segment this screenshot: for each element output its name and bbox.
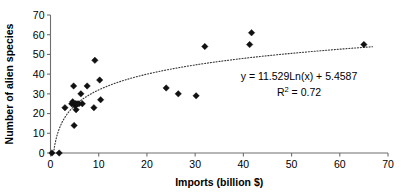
y-tick-label: 10 <box>33 127 45 139</box>
x-tick-label: 60 <box>334 158 346 170</box>
data-point-marker <box>70 83 77 90</box>
data-point-marker <box>96 77 103 84</box>
data-point-marker <box>193 93 200 100</box>
data-point-marker <box>56 150 63 157</box>
data-point-marker <box>49 150 56 157</box>
y-tick-label: 20 <box>33 107 45 119</box>
equation-annotation-group: y = 11.529Ln(x) + 5.4587R2 = 0.72 <box>241 70 358 98</box>
data-point-marker <box>71 122 78 128</box>
axis-lines <box>51 15 389 153</box>
y-tick-label: 30 <box>33 88 45 100</box>
y-tick-label: 70 <box>33 9 45 21</box>
x-tick-label: 50 <box>286 158 298 170</box>
data-point-marker <box>202 43 209 50</box>
data-point-marker <box>163 85 170 92</box>
x-tick-label: 0 <box>48 158 54 170</box>
chart-canvas: 010203040506070010203040506070 Imports (… <box>0 0 406 193</box>
y-tick-label: 50 <box>33 48 45 60</box>
scatter-plot-figure: 010203040506070010203040506070 Imports (… <box>0 0 406 193</box>
x-axis-title: Imports (billion $) <box>175 176 263 188</box>
data-point-marker <box>84 83 91 90</box>
data-point-marker <box>248 29 255 36</box>
r-squared-label: R2 = 0.72 <box>277 85 321 99</box>
data-point-marker <box>78 91 85 98</box>
y-tick-label: 40 <box>33 68 45 80</box>
r-squared-value: = 0.72 <box>289 86 322 98</box>
x-tick-label: 30 <box>189 158 201 170</box>
data-point-marker <box>92 57 99 64</box>
x-tick-label: 20 <box>141 158 153 170</box>
data-point-marker <box>62 104 69 111</box>
trendline-equation-label: y = 11.529Ln(x) + 5.4587 <box>241 70 358 82</box>
data-point-marker <box>246 41 253 48</box>
data-point-marker <box>175 91 182 98</box>
x-tick-label: 70 <box>382 158 394 170</box>
data-point-marker <box>97 97 104 104</box>
data-point-marker <box>91 104 98 111</box>
x-tick-label: 40 <box>238 158 250 170</box>
y-axis-title: Number of alien species <box>3 23 15 144</box>
x-tick-label: 10 <box>93 158 105 170</box>
y-tick-label: 0 <box>39 147 45 159</box>
y-tick-label: 60 <box>33 29 45 41</box>
